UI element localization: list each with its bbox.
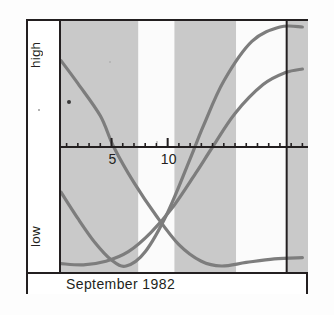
scan-speck-large-icon: [67, 100, 71, 104]
scan-speck-icon: [38, 109, 40, 111]
chart-frame: high low 510 September 1982: [26, 19, 308, 294]
scan-speck-small2-icon: [156, 141, 158, 143]
plot-area: 510: [61, 21, 308, 272]
plot-svg: 510: [61, 21, 308, 272]
caption-date-label: September 1982: [66, 276, 175, 292]
y-axis-low-label: low: [28, 211, 59, 263]
scan-speck-small-icon: [109, 61, 111, 63]
y-axis-label-column: high low: [28, 21, 61, 272]
y-axis-high-label: high: [28, 27, 59, 83]
x-tick-label-10: 10: [161, 151, 177, 167]
biorhythm-figure: high low 510 September 1982: [0, 0, 334, 315]
caption-strip: September 1982: [28, 272, 306, 294]
x-tick-label-5: 5: [109, 151, 117, 167]
